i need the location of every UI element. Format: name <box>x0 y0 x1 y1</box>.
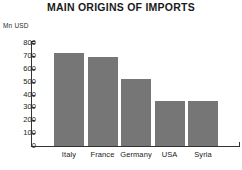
chart-page: MAIN ORIGINS OF IMPORTS Mn USD 010020030… <box>0 0 242 170</box>
bar <box>54 53 84 146</box>
bar <box>121 79 151 146</box>
bar-series <box>0 0 242 146</box>
bar <box>188 101 218 146</box>
x-tick-label: Syria <box>180 150 226 159</box>
bar <box>88 57 118 146</box>
bar <box>155 101 185 146</box>
x-axis-line <box>31 146 240 147</box>
